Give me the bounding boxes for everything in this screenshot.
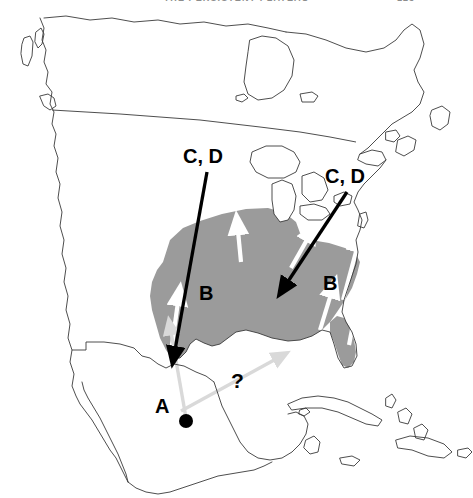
cuba [288,396,382,426]
label-b-east: B [323,272,337,294]
mexico-pacific-coast [128,462,272,494]
lake-michigan [272,180,296,222]
lake-winnipeg [300,92,318,102]
north-america-map: C, D C, D B B A ? [0,0,473,498]
baja-gulf-side [82,382,128,482]
arctic-coast [44,16,286,32]
white-arrow-florida [349,314,355,345]
newfoundland [430,106,450,130]
labrador-coast [286,24,424,154]
yucatan-tip [304,436,320,454]
west-coast [40,18,128,482]
usa-canada-border [52,110,356,142]
vancouver-island [21,36,33,66]
bahamas-north [386,394,396,408]
great-slave-lake [236,94,248,102]
jamaica [340,456,360,466]
usa-mexico-border [72,342,214,382]
mexico-gulf-coast [214,382,308,460]
label-a-mexico: A [155,395,169,417]
pale-arrow-northeast [181,359,276,411]
label-b-central: B [199,282,213,304]
lake-erie [300,204,330,220]
figure-map: THE PERSISTENT PLATEAU 125 [0,0,473,498]
source-locality-dot [179,414,193,428]
bahamas-mid [398,408,412,424]
puerto-rico [458,448,472,458]
label-cd-west: C, D [183,145,223,167]
label-cd-east: C, D [325,165,365,187]
lake-superior [250,146,300,178]
puget-sound [40,94,56,110]
chesapeake-bay [358,212,368,228]
label-query-gulf: ? [231,369,244,392]
white-arrow-plains [238,231,241,262]
hudson-bay [244,36,294,100]
nova-scotia [396,136,416,156]
